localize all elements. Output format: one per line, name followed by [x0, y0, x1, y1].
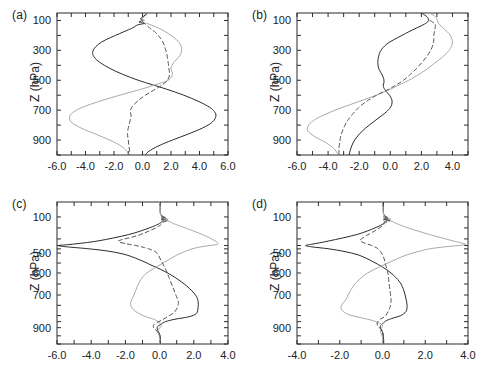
x-tick-label: 4.0	[460, 349, 475, 361]
y-tick-label: 700	[255, 289, 291, 301]
plot-area-d	[0, 0, 481, 379]
y-tick-label: 600	[255, 267, 291, 279]
y-tick-label: 100	[255, 211, 291, 223]
curve-d-dark_dashed	[360, 217, 391, 344]
x-tick-label: -2.0	[330, 349, 349, 361]
curve-d-gray_solid	[341, 202, 466, 344]
panel-d: (d)Z (hPa)100500600700900-4.0-2.00.02.04…	[0, 0, 481, 379]
x-tick-label: -4.0	[288, 349, 307, 361]
figure-canvas: (a)Z (hPa)100300500700900-6.0-4.0-2.00.0…	[0, 0, 481, 379]
y-tick-label: 500	[255, 247, 291, 259]
y-tick-label: 900	[255, 322, 291, 334]
x-tick-label: 0.0	[375, 349, 390, 361]
curve-d-dark_solid	[306, 202, 408, 344]
x-tick-label: 2.0	[418, 349, 433, 361]
